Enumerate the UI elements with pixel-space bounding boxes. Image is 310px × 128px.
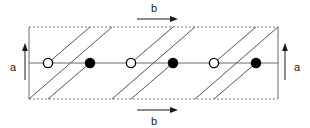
atom-filled-3 <box>251 58 260 67</box>
diagonal-line-7 <box>48 63 90 99</box>
axis-label-b-bottom: b <box>151 115 157 127</box>
arrow-up-icon-left <box>22 43 28 80</box>
atom-filled-2 <box>168 58 177 67</box>
arrow-right-icon-bottom <box>137 107 178 113</box>
atom-open-1 <box>43 58 52 67</box>
axis-label-a-right: a <box>294 61 301 73</box>
atom-filled-1 <box>85 58 94 67</box>
arrow-right-icon-top <box>137 16 178 22</box>
diagonal-line-4 <box>48 27 90 63</box>
arrow-up-icon-right <box>282 43 288 80</box>
unit-cell-diagram: a a b b <box>0 0 310 128</box>
diagonal-line-6 <box>214 27 256 63</box>
axis-label-b-top: b <box>151 2 157 14</box>
unit-cell-figure: a a b b <box>0 0 310 128</box>
atom-open-2 <box>126 58 135 67</box>
atom-open-3 <box>209 58 218 67</box>
axis-arrows-group <box>22 16 288 113</box>
diagonal-line-8 <box>131 63 173 99</box>
diagonal-line-9 <box>214 63 256 99</box>
diagonal-line-5 <box>131 27 173 63</box>
axis-label-a-left: a <box>10 61 17 73</box>
